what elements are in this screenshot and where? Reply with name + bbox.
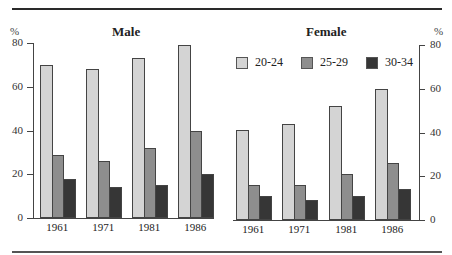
legend-item-30-34: 30-34	[366, 55, 413, 70]
male-x-category-label: 1961	[37, 221, 77, 233]
male-y-tick	[27, 174, 33, 175]
legend-label: 25-29	[320, 55, 348, 70]
male-y-tick-label: 0	[3, 211, 23, 223]
female-y-tick-label: 20	[430, 169, 450, 181]
female-x-category-label: 1981	[326, 223, 366, 235]
female-bar-1961-30-34	[259, 196, 272, 220]
male-y-tick	[27, 43, 33, 44]
male-bar-1971-30-34	[109, 187, 122, 218]
female-y-tick-label: 60	[430, 82, 450, 94]
male-y-tick	[27, 87, 33, 88]
legend-label: 20-24	[255, 55, 283, 70]
female-bar-1971-30-34	[305, 200, 318, 220]
legend-swatch-20-24	[236, 57, 248, 69]
male-bar-1961-30-34	[63, 179, 76, 218]
female-y-tick-label: 0	[430, 213, 450, 225]
male-y-tick-label: 40	[3, 124, 23, 136]
female-y-tick	[419, 45, 425, 46]
male-x-axis	[33, 218, 214, 219]
female-x-category-label: 1986	[372, 223, 412, 235]
male-y-tick	[27, 218, 33, 219]
female-chart-title: Female	[306, 24, 346, 40]
legend-swatch-30-34	[366, 57, 378, 69]
female-bar-1986-30-34	[398, 189, 411, 220]
female-y-tick	[419, 176, 425, 177]
female-y-unit: %	[434, 25, 443, 37]
female-y-tick	[419, 89, 425, 90]
female-bar-1981-30-34	[352, 196, 365, 220]
male-y-tick-label: 20	[3, 167, 23, 179]
male-x-category-label: 1986	[175, 221, 215, 233]
legend-item-25-29: 25-29	[301, 55, 348, 70]
female-x-axis	[233, 220, 419, 221]
legend-item-20-24: 20-24	[236, 55, 283, 70]
bottom-rule	[12, 251, 442, 253]
male-y-tick-label: 60	[3, 80, 23, 92]
legend-label: 30-34	[385, 55, 413, 70]
male-x-category-label: 1981	[129, 221, 169, 233]
female-x-category-label: 1971	[279, 223, 319, 235]
male-y-tick	[27, 131, 33, 132]
male-y-tick-label: 80	[3, 36, 23, 48]
female-y-tick	[419, 133, 425, 134]
male-chart-title: Male	[112, 24, 140, 40]
legend-swatch-25-29	[301, 57, 313, 69]
female-y-tick-label: 40	[430, 126, 450, 138]
male-x-category-label: 1971	[83, 221, 123, 233]
male-bar-1981-30-34	[155, 185, 168, 218]
male-bar-1986-30-34	[201, 174, 214, 218]
female-y-tick-label: 80	[430, 38, 450, 50]
top-rule	[12, 8, 442, 10]
female-x-category-label: 1961	[233, 223, 273, 235]
female-y-tick	[419, 220, 425, 221]
legend: 20-24 25-29 30-34	[236, 55, 431, 70]
male-y-axis	[33, 43, 34, 218]
